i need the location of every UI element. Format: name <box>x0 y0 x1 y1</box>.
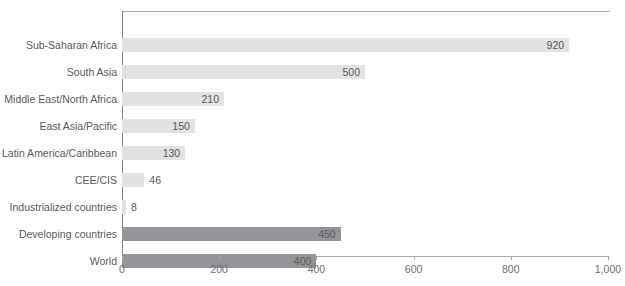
x-tick-label: 800 <box>481 262 541 276</box>
x-tick-label: 200 <box>189 262 249 276</box>
x-tick-mark <box>511 256 512 260</box>
bar-value-label: 8 <box>131 199 137 215</box>
category-label: Industrialized countries <box>0 194 117 221</box>
category-label: CEE/CIS <box>0 167 117 194</box>
x-tick-mark <box>219 256 220 260</box>
x-tick-label: 0 <box>92 262 152 276</box>
bar-row: 8 <box>122 194 608 221</box>
bar-row: 920 <box>122 32 608 59</box>
bar-chart: Sub-Saharan AfricaSouth AsiaMiddle East/… <box>0 0 625 286</box>
bar-value-label: 46 <box>149 172 161 188</box>
bar <box>122 200 126 214</box>
bar-row: 500 <box>122 59 608 86</box>
bar-row: 130 <box>122 140 608 167</box>
bar-value-label: 920 <box>122 37 564 53</box>
category-label: Latin America/Caribbean <box>0 140 117 167</box>
bar-row: 450 <box>122 221 608 248</box>
category-label: Developing countries <box>0 221 117 248</box>
bar-value-label: 150 <box>122 118 190 134</box>
x-tick-label: 600 <box>384 262 444 276</box>
bar-value-label: 130 <box>122 145 180 161</box>
x-tick-mark <box>316 256 317 260</box>
category-label: Sub-Saharan Africa <box>0 32 117 59</box>
bar-row: 150 <box>122 113 608 140</box>
x-tick-mark <box>608 256 609 260</box>
category-label: East Asia/Pacific <box>0 113 117 140</box>
bar-value-label: 450 <box>122 226 336 242</box>
x-tick-label: 1,000 <box>578 262 625 276</box>
category-label: South Asia <box>0 59 117 86</box>
bar-row: 210 <box>122 86 608 113</box>
x-tick-mark <box>414 256 415 260</box>
bar-value-label: 210 <box>122 91 219 107</box>
x-tick-label: 400 <box>286 262 346 276</box>
bar <box>122 173 144 187</box>
category-axis-labels: Sub-Saharan AfricaSouth AsiaMiddle East/… <box>0 11 117 256</box>
x-tick-mark <box>122 256 123 260</box>
bar-value-label: 500 <box>122 64 360 80</box>
plot-area: 920500210150130468450400 <box>122 11 608 256</box>
bar-row: 46 <box>122 167 608 194</box>
category-label: Middle East/North Africa <box>0 86 117 113</box>
